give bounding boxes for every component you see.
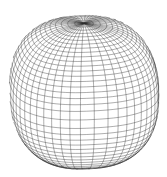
- wireframe-figure: [0, 0, 167, 177]
- wireframe-mesh: [0, 0, 167, 177]
